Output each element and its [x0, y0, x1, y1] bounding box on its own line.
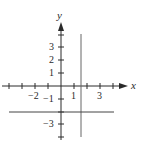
coordinate-plot: x y −2 1 3 3 2 1 −1 −3 — [0, 0, 142, 148]
y-axis-arrow-icon — [58, 22, 64, 31]
y-tick-label: 2 — [49, 54, 54, 65]
x-tick-label: 3 — [97, 90, 102, 101]
y-tick-label: 1 — [49, 67, 54, 78]
x-tick-label: −2 — [28, 90, 39, 101]
y-tick-label: −1 — [43, 93, 54, 104]
x-axis-label: x — [130, 79, 136, 91]
y-axis-label: y — [56, 9, 62, 21]
x-tick-label: 1 — [71, 90, 76, 101]
y-tick-label: −3 — [43, 118, 54, 129]
x-axis-arrow-icon — [119, 83, 128, 89]
y-tick-label: 3 — [49, 41, 54, 52]
